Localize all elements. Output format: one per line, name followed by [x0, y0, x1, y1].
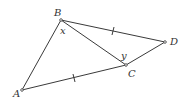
angle-label-y: y [120, 50, 127, 61]
label-A: A [12, 88, 20, 99]
point-A [21, 89, 24, 92]
label-B: B [53, 7, 61, 18]
point-D [164, 41, 167, 44]
point-B [60, 19, 63, 22]
segment-CD [126, 42, 165, 65]
label-D: D [169, 36, 178, 47]
segment-AB [22, 20, 61, 90]
label-C: C [128, 68, 136, 79]
geometry-diagram: A B C D x y [0, 0, 187, 106]
angle-label-x: x [60, 25, 66, 36]
point-C [125, 64, 128, 67]
